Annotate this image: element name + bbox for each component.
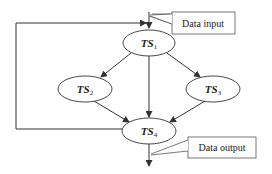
- data-output-label: Data output: [199, 142, 246, 153]
- edge-ts1-ts2: [101, 53, 131, 77]
- data-input-callout: Data input: [149, 12, 235, 34]
- edge-ts3-ts4: [170, 101, 205, 122]
- task-flow-diagram: Data input Data output TS1 TS2 TS3 TS4: [0, 0, 272, 174]
- node-ts4-label: TS: [141, 125, 154, 137]
- node-ts2: TS2: [58, 76, 112, 102]
- node-ts2-label: TS: [77, 83, 90, 95]
- edge-ts2-ts4: [94, 101, 129, 122]
- node-ts4: TS4: [122, 118, 176, 144]
- node-ts1: TS1: [123, 30, 175, 56]
- node-ts1-label: TS: [141, 37, 154, 49]
- edge-ts1-ts3: [167, 53, 200, 77]
- node-ts3-label: TS: [205, 83, 218, 95]
- node-ts3: TS3: [186, 76, 240, 102]
- data-input-label: Data input: [182, 18, 224, 29]
